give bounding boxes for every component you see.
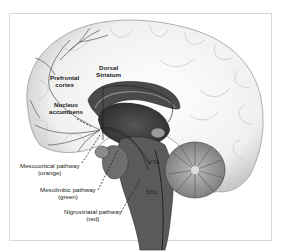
label-mesolimbic-pathway: Mesolimbic pathway (green)	[40, 186, 96, 200]
label-nigrostriatal-pathway: Nigrostriatal pathway (red)	[64, 208, 122, 222]
label-nucleus-accumbens: Nucleus accumbens	[49, 101, 83, 115]
label-mesocortical-pathway: Mesocortical pathway (orange)	[20, 162, 80, 176]
label-vta: VTA	[148, 158, 160, 165]
label-prefrontal-cortex: Prefrontal cortex	[50, 74, 79, 88]
cerebellum	[165, 142, 225, 198]
brain-illustration	[0, 0, 283, 252]
label-dorsal-striatum: Dorsal Striatum	[96, 64, 121, 78]
label-snc: SNc	[146, 188, 158, 195]
